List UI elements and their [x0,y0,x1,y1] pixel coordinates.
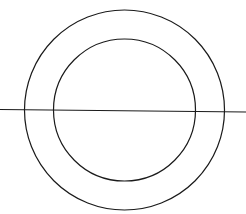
horizontal-secant-line [0,110,246,113]
concentric-circles-diagram [0,0,246,214]
